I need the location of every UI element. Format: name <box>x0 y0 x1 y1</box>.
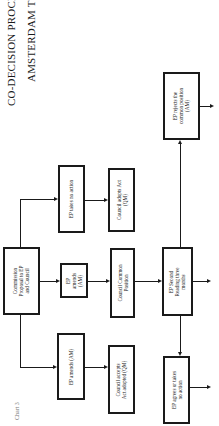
arrow-icon <box>178 140 182 144</box>
connector-line <box>20 367 53 368</box>
node-ep-amends-middle: EP amends (AM) <box>60 263 88 298</box>
node-label: EP Second Reading three months <box>169 267 187 296</box>
node-council-accepts: Council accepts Act adopted (QM) <box>108 345 135 414</box>
node-label: Council accepts Act adopted (QM) <box>116 360 128 398</box>
connector-line <box>20 199 21 247</box>
node-ep-takes-no-action: EP takes no action <box>58 165 85 233</box>
connector-line <box>20 199 54 200</box>
node-council-common-position: Council Common Position <box>110 248 135 318</box>
connector-line <box>88 281 106 282</box>
node-label: EP takes no action <box>69 180 75 218</box>
node-council-adopts-act: Council adopts Act (QM) <box>108 168 135 232</box>
connector-line <box>193 281 207 282</box>
arrow-icon <box>210 104 214 108</box>
node-ep-rejects: EP rejects the common position (AM) <box>163 72 200 140</box>
node-ep-second-reading: EP Second Reading three months <box>162 247 193 316</box>
node-label: EP amends (AM) <box>68 348 74 384</box>
node-ep-agrees: EP agrees or takes no action <box>163 356 190 424</box>
arrow-icon <box>207 279 211 283</box>
connector-line <box>190 387 207 388</box>
node-commission-proposal: Commission Proposal to EP and Council <box>3 247 40 315</box>
chart-caption: Chart 3 <box>14 402 20 420</box>
connector-line <box>85 200 104 201</box>
connector-line <box>20 315 21 367</box>
connector-line <box>135 281 158 282</box>
diagram-title: CO-DECISION PROCEDURE <box>5 0 17 106</box>
arrow-icon <box>207 385 211 389</box>
node-label: Council adopts Act (QM) <box>116 180 128 220</box>
connector-line <box>85 367 104 368</box>
connector-line <box>180 144 181 247</box>
connector-line <box>40 281 56 282</box>
node-label: EP rejects the common position (AM) <box>173 88 191 124</box>
node-label: EP agrees or takes no action <box>171 371 183 409</box>
connector-line <box>180 316 181 352</box>
diagram-subtitle: AMSTERDAM TREATY <box>25 0 37 82</box>
connector-line <box>200 106 210 107</box>
node-ep-amends-bottom: EP amends (AM) <box>57 333 85 400</box>
node-label: Council Common Position <box>117 264 129 301</box>
node-label: Commission Proposal to EP and Council <box>13 266 31 297</box>
node-label: EP amends (AM) <box>65 273 83 289</box>
